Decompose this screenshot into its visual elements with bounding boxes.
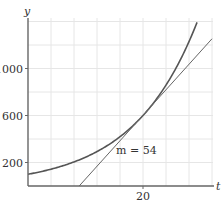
y-tick-label: 600	[2, 110, 23, 123]
grid	[28, 18, 213, 186]
y-tick-label: 200	[2, 157, 23, 170]
chart: 200600100020 y t m = 54	[0, 0, 224, 204]
x-tick-label: 20	[136, 190, 150, 203]
y-axis-label: y	[23, 5, 31, 18]
slope-annotation: m = 54	[116, 144, 157, 157]
tangent-line	[79, 39, 212, 186]
x-axis-label: t	[216, 180, 221, 193]
y-tick-label: 1000	[0, 63, 23, 76]
